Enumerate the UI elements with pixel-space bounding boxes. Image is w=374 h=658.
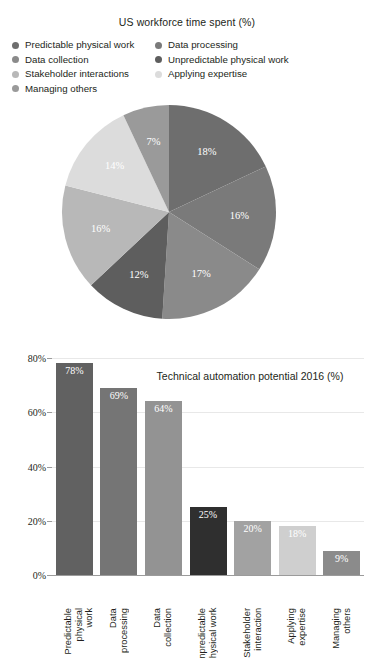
bar: 64% xyxy=(145,401,182,575)
x-axis-category-label: Managing others xyxy=(331,608,352,649)
y-axis-tick-mark xyxy=(47,358,52,359)
bar-chart-panel: Technical automation potential 2016 (%) … xyxy=(0,330,374,658)
legend-item-label: Data processing xyxy=(168,38,238,53)
legend-swatch-icon xyxy=(155,71,162,78)
legend-item-label: Data collection xyxy=(25,53,89,68)
y-axis-tick-mark xyxy=(47,412,52,413)
bar-value-label: 78% xyxy=(65,366,83,575)
bar: 20% xyxy=(234,521,271,575)
pie-slice-label: 16% xyxy=(91,223,111,234)
bar-value-label: 64% xyxy=(154,404,172,575)
bar-value-label: 25% xyxy=(199,510,217,575)
legend-item: Predictable physical work xyxy=(12,38,162,53)
y-axis-tick-label: 60% xyxy=(28,407,46,418)
x-axis-category-label: Data collection xyxy=(152,608,173,647)
bar: 25% xyxy=(190,507,227,575)
bar-value-label: 9% xyxy=(335,554,348,575)
pie-slice-label: 7% xyxy=(147,136,161,147)
bar: 78% xyxy=(56,363,93,575)
y-axis-tick-label: 40% xyxy=(28,461,46,472)
legend-swatch-icon xyxy=(12,85,19,92)
bar-value-label: 20% xyxy=(243,524,261,575)
legend-item: Stakeholder interactions xyxy=(12,67,162,82)
y-axis-tick-label: 80% xyxy=(28,353,46,364)
bar-value-label: 18% xyxy=(288,529,306,575)
gridline xyxy=(52,358,364,359)
legend-item-label: Managing others xyxy=(25,82,97,97)
legend-item-label: Unpredictable physical work xyxy=(168,53,289,68)
legend-swatch-icon xyxy=(155,56,162,63)
bar: 69% xyxy=(100,388,137,575)
pie-chart-graphic: 18%16%17%12%16%14%7% xyxy=(62,105,276,319)
pie-chart-title: US workforce time spent (%) xyxy=(0,16,374,28)
legend-swatch-icon xyxy=(12,71,19,78)
y-axis-tick-mark xyxy=(47,467,52,468)
bar-value-label: 69% xyxy=(110,391,128,575)
figure-page: US workforce time spent (%) Predictable … xyxy=(0,0,374,658)
legend-swatch-icon xyxy=(12,56,19,63)
legend-item: Applying expertise xyxy=(155,67,374,82)
legend-item: Unpredictable physical work xyxy=(155,53,374,68)
pie-slice-label: 14% xyxy=(105,160,125,171)
x-axis-category-label: Predictable physical work xyxy=(63,608,95,655)
pie-chart-panel: US workforce time spent (%) Predictable … xyxy=(0,0,374,330)
legend-item-label: Predictable physical work xyxy=(25,38,134,53)
x-axis-category-label: Data processing xyxy=(108,608,129,653)
x-axis-line xyxy=(52,575,364,576)
pie-svg: 18%16%17%12%16%14%7% xyxy=(62,105,276,319)
x-axis-category-label: Stakeholder interaction xyxy=(242,608,263,658)
legend-item: Data processing xyxy=(155,38,374,53)
y-axis-tick-label: 0% xyxy=(33,570,46,581)
legend-item: Managing others xyxy=(12,82,162,97)
bar: 18% xyxy=(279,526,316,575)
pie-slice-label: 17% xyxy=(191,268,211,279)
pie-slice-label: 16% xyxy=(230,210,250,221)
x-axis-category-label: Unpredictable physical work xyxy=(197,608,218,658)
bar-chart-plot-area: 0%20%40%60%80%78%Predictable physical wo… xyxy=(52,358,364,575)
gridline xyxy=(52,467,364,468)
pie-legend-column-right: Data processingUnpredictable physical wo… xyxy=(155,38,374,82)
legend-item-label: Stakeholder interactions xyxy=(25,67,129,82)
legend-item-label: Applying expertise xyxy=(168,67,247,82)
pie-slice-label: 12% xyxy=(129,269,149,280)
legend-swatch-icon xyxy=(12,42,19,49)
pie-legend-column-left: Predictable physical workData collection… xyxy=(12,38,162,96)
y-axis-tick-mark xyxy=(47,575,52,576)
pie-slice-label: 18% xyxy=(197,146,217,157)
y-axis-tick-mark xyxy=(47,521,52,522)
gridline xyxy=(52,412,364,413)
legend-swatch-icon xyxy=(155,42,162,49)
legend-item: Data collection xyxy=(12,53,162,68)
y-axis-tick-label: 20% xyxy=(28,515,46,526)
bar: 9% xyxy=(323,551,360,575)
x-axis-category-label: Applying expertise xyxy=(286,608,307,646)
